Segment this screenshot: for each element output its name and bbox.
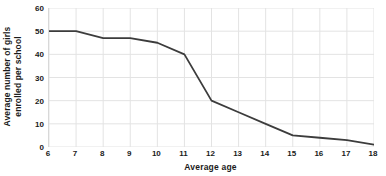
plot-svg: [49, 8, 374, 147]
y-axis-tick-label: 60: [35, 4, 44, 13]
x-axis-tick-label: 17: [341, 149, 350, 158]
x-axis-tick-label: 10: [152, 149, 161, 158]
x-axis-tick-label: 16: [314, 149, 323, 158]
y-axis-tick-label: 20: [35, 96, 44, 105]
x-axis-tick-labels: 6789101112131415161718: [48, 149, 373, 163]
x-axis-title: Average age: [48, 162, 373, 172]
plot-area: [48, 8, 373, 147]
x-axis-tick-label: 18: [369, 149, 378, 158]
y-axis-title: Average number of girls enrolled per sch…: [0, 0, 26, 152]
x-axis-tick-label: 15: [287, 149, 296, 158]
y-axis-tick-label: 40: [35, 50, 44, 59]
x-axis-tick-label: 7: [73, 149, 77, 158]
x-axis-tick-label: 12: [206, 149, 215, 158]
x-axis-tick-label: 14: [260, 149, 269, 158]
y-axis-tick-label: 50: [35, 27, 44, 36]
y-axis-title-line-2: enrolled per school: [13, 26, 24, 126]
x-axis-tick-label: 13: [233, 149, 242, 158]
y-axis-tick-label: 30: [35, 73, 44, 82]
x-axis-tick-label: 9: [127, 149, 131, 158]
y-axis-title-line-1: Average number of girls: [3, 26, 13, 126]
x-axis-tick-label: 8: [100, 149, 104, 158]
x-axis-tick-label: 11: [179, 149, 187, 158]
line-chart: Average number of girls enrolled per sch…: [0, 0, 386, 176]
y-axis-tick-label: 10: [35, 119, 44, 128]
y-axis-tick-labels: 0102030405060: [26, 0, 46, 152]
y-axis-tick-label: 0: [40, 143, 44, 152]
x-axis-tick-label: 6: [46, 149, 50, 158]
